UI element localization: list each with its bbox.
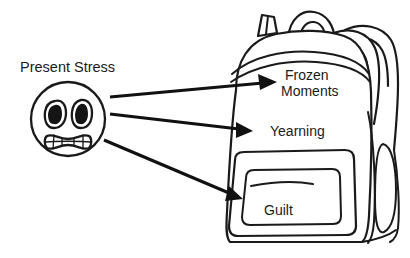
stressed-face-icon xyxy=(31,82,105,156)
diagram-svg: Present Stress Frozen Moments Yearning G… xyxy=(0,0,410,258)
backpack-side-pocket xyxy=(375,144,396,232)
label-frozen-moments-line2: Moments xyxy=(281,83,339,99)
face-teeth-horizontal xyxy=(45,141,91,142)
present-stress-label: Present Stress xyxy=(20,59,115,75)
arrow-to-guilt xyxy=(104,140,243,201)
diagram-canvas: Present Stress Frozen Moments Yearning G… xyxy=(0,0,410,258)
arrow-shaft-3 xyxy=(104,140,229,193)
label-guilt: Guilt xyxy=(264,202,293,218)
label-yearning: Yearning xyxy=(270,123,325,139)
label-frozen-moments-line1: Frozen xyxy=(285,67,329,83)
arrow-shaft-2 xyxy=(110,114,239,129)
